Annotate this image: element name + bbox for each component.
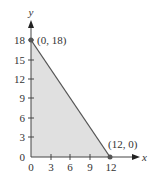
x-tick-label: 3 [48,161,54,173]
y-tick-label: 9 [20,92,26,104]
point-0-18 [29,38,34,43]
x-axis-arrow-icon [132,154,140,160]
chart: 18 15 12 9 6 3 0 0 3 6 9 12 y x (0, 18) … [0,0,150,174]
y-tick-label: 12 [14,73,25,85]
point-12-0 [108,155,113,160]
x-tick-label: 12 [106,161,117,173]
x-tick-label: 0 [28,161,34,173]
x-tick-label: 6 [67,161,73,173]
y-tick-label: 3 [20,131,26,143]
y-axis-label: y [28,6,34,18]
point-label: (0, 18) [37,34,67,47]
y-tick-label: 0 [20,151,26,163]
y-tick-label: 15 [14,54,26,66]
y-tick-label: 6 [20,112,26,124]
x-axis-label: x [141,151,147,163]
x-tick-label: 9 [87,161,93,173]
y-tick-label: 18 [14,34,26,46]
y-axis-arrow-icon [28,20,34,28]
point-label: (12, 0) [108,138,138,151]
